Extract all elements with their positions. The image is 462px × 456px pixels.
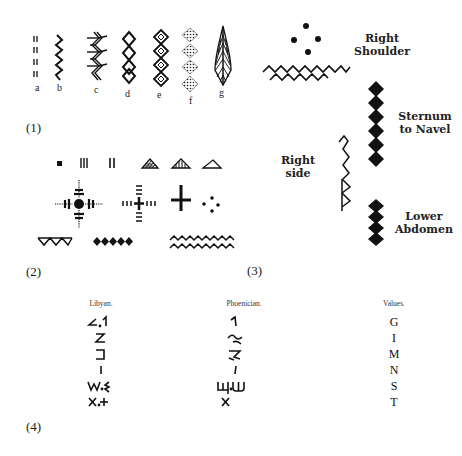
feathered-zigzag-icon [86,30,108,84]
square-dot-icon [56,160,64,168]
panel-2-number: (2) [26,264,41,280]
panel-3-number: (3) [247,263,262,279]
zigzag-line-icon [53,34,65,82]
pattern-label-a: a [35,82,39,93]
hatched-triangle-icon [141,158,159,169]
value-cell: G [380,314,408,330]
phoenician-glyph-column [216,316,256,412]
pattern-label-b: b [57,82,62,93]
dashed-cross-with-dot-icon [55,180,103,228]
label-sternum-to-navel: Sternum to Navel [395,110,455,136]
right-side-zigzag-icon [338,135,354,211]
values-column: G I M N S T [380,314,408,410]
diamond-row-icon [92,236,136,247]
column-header-phoenician: Phoenician. [222,299,266,308]
column-header-libyan: Libyan. [84,299,118,308]
column-header-values: Values. [377,299,411,308]
pattern-label-c: c [94,84,98,95]
libyan-glyph-column [86,316,116,412]
paired-dashes-icon [32,34,40,82]
label-lower-abdomen: Lower Abdomen [390,210,458,236]
panel-4-number: (4) [26,419,41,435]
value-cell: I [380,330,408,346]
dashed-cross-icon [121,184,157,224]
pattern-label-d: d [125,88,130,99]
chain-of-diamonds-icon [121,30,137,84]
dotted-diamonds-icon [180,27,200,93]
label-right-shoulder: Right Shoulder [352,32,412,58]
pattern-label-e: e [157,89,161,100]
shoulder-zigzag-icon [262,61,352,83]
value-cell: M [380,346,408,362]
pattern-label-g: g [219,87,224,98]
double-zigzag-icon [169,235,235,251]
value-cell: T [380,394,408,410]
triple-bar-icon [79,157,89,169]
solid-cross-icon [170,184,192,212]
value-cell: N [380,362,408,378]
sternum-diamond-column-icon [367,80,385,174]
four-dots-shoulder-icon [290,23,322,55]
panel-1-number: (1) [26,120,41,136]
nested-diamonds-icon [152,29,170,89]
label-right-side: Right side [268,154,328,180]
four-dots-icon [202,196,220,214]
triangle-row-icon [37,237,73,247]
abdomen-diamond-column-icon [367,198,385,248]
leaf-hatched-icon [211,25,235,87]
pattern-label-f: f [189,95,192,106]
open-triangle-icon [202,159,222,169]
double-bar-icon [108,157,116,169]
striped-triangle-icon [171,158,191,169]
value-cell: S [380,378,408,394]
